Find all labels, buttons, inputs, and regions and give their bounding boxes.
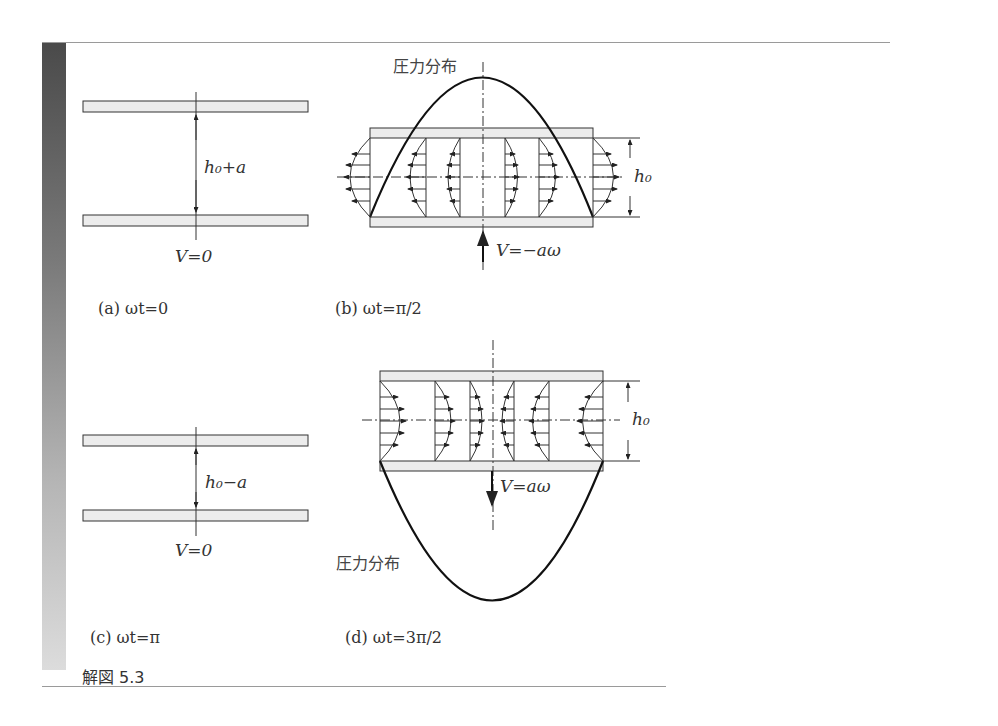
panel-b-height-label: h₀ [634,166,652,186]
figure-title: 解図 5.3 [82,664,145,688]
velocity-profiles-right [500,381,603,461]
figure-drawing [0,0,998,726]
panel-b [337,62,640,272]
panel-a-velocity-label: V=0 [175,246,212,266]
panel-d-velocity-label: V=aω [500,476,551,496]
upper-plate [380,371,603,381]
panel-c-caption: (c) ωt=π [90,628,160,647]
lower-plate [370,217,593,227]
panel-c-gap-label: h₀−a [205,472,247,492]
panel-b-velocity-label: V=−aω [496,240,561,260]
panel-a-caption: (a) ωt=0 [98,299,168,318]
panel-a-gap-label: h₀+a [204,157,246,177]
pressure-curve [370,78,593,218]
panel-d-pressure-label: 圧力分布 [336,550,400,574]
panel-b-caption: (b) ωt=π/2 [335,299,422,318]
lower-plate [380,461,603,471]
panel-c [83,427,308,536]
panel-c-velocity-label: V=0 [175,540,212,560]
panel-a [83,92,308,240]
panel-d [362,340,640,601]
velocity-profiles-left [380,381,484,461]
panel-d-caption: (d) ωt=3π/2 [345,628,442,647]
panel-b-pressure-label: 圧力分布 [393,53,457,77]
upper-plate [370,128,593,138]
panel-d-height-label: h₀ [632,409,650,429]
